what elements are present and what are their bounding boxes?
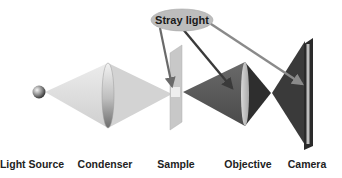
label-objective: Objective (224, 158, 271, 170)
illumination-cone-out (108, 63, 172, 128)
sample-spot (171, 87, 180, 97)
label-camera: Camera (288, 158, 327, 170)
label-sample: Sample (157, 158, 194, 170)
light-source-bulb-icon (33, 86, 46, 99)
label-condenser: Condenser (78, 158, 133, 170)
stray-light-label: Stray light (155, 14, 209, 26)
objective-cone-in (183, 62, 245, 126)
condenser-lens-icon (102, 63, 114, 128)
stray-light-diagram: Stray light (0, 0, 342, 178)
objective-lens-icon (241, 62, 249, 126)
camera-cone (272, 41, 305, 145)
label-light-source: Light Source (0, 158, 64, 170)
camera-sensor-surface (307, 44, 310, 144)
illumination-cone-in (45, 63, 108, 128)
stray-arrow-to-objective (182, 28, 232, 88)
